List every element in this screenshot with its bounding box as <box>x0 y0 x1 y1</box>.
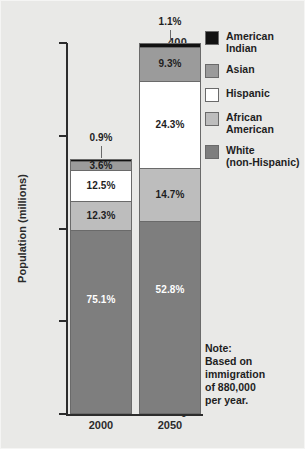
legend-item-american-indian[interactable]: American Indian <box>205 30 301 54</box>
legend-swatch-hispanic <box>205 88 219 102</box>
bar-segment-label: 12.3% <box>87 211 116 221</box>
x-axis-label-2050: 2050 <box>139 419 201 431</box>
plot-area: 4003002001000 0.9%3.6%12.5%12.3%75.1%1.1… <box>68 43 199 414</box>
legend-item-asian[interactable]: Asian <box>205 63 301 78</box>
legend-label-hispanic: Hispanic <box>226 87 270 99</box>
bar-segment-label: 14.7% <box>156 190 185 200</box>
bar-segment-hispanic[interactable]: 12.5% <box>71 171 131 201</box>
y-axis-tick <box>59 413 67 415</box>
stacked-bar-2050[interactable]: 9.3%24.3%14.7%52.8% <box>139 43 201 414</box>
bar-segment-white-non-hispanic[interactable]: 52.8% <box>140 222 200 413</box>
legend-swatch-asian <box>205 64 219 78</box>
bar-segment-label-american-indian: 1.1% <box>135 16 205 27</box>
x-axis-label-2000: 2000 <box>70 419 132 431</box>
y-axis-tick <box>59 228 67 230</box>
legend-label-white-non-hispanic: White (non-Hispanic) <box>226 144 300 168</box>
legend-label-american-indian: American Indian <box>226 30 274 54</box>
y-axis-tick <box>59 320 67 322</box>
callout-leader-line <box>170 30 171 42</box>
legend-swatch-white-non-hispanic <box>205 145 219 159</box>
bar-segment-african-american[interactable]: 14.7% <box>140 169 200 222</box>
legend-item-white-non-hispanic[interactable]: White (non-Hispanic) <box>205 144 301 168</box>
y-axis-tick <box>59 42 67 44</box>
legend-label-asian: Asian <box>226 63 255 75</box>
legend-swatch-african-american <box>205 112 219 126</box>
y-axis-title: Population (millions) <box>14 43 30 414</box>
bar-segment-asian[interactable]: 3.6% <box>71 162 131 171</box>
bar-segment-hispanic[interactable]: 24.3% <box>140 82 200 170</box>
legend: American IndianAsianHispanicAfrican Amer… <box>205 30 301 177</box>
legend-label-african-american: African American <box>226 111 274 135</box>
y-axis-title-wrapper: Population (millions) <box>10 43 26 414</box>
stacked-bar-2000[interactable]: 3.6%12.5%12.3%75.1% <box>70 159 132 414</box>
bar-segment-asian[interactable]: 9.3% <box>140 48 200 82</box>
legend-swatch-american-indian <box>205 31 219 45</box>
bar-segment-label: 24.3% <box>156 120 185 130</box>
chart-figure: Population (millions) 4003002001000 0.9%… <box>0 0 305 449</box>
bar-segment-label: 75.1% <box>87 295 116 305</box>
bar-segment-white-non-hispanic[interactable]: 75.1% <box>71 231 131 413</box>
bar-segment-label: 9.3% <box>158 59 181 69</box>
bar-segment-label: 52.8% <box>156 285 185 295</box>
chart-note: Note: Based on immigration of 880,000 pe… <box>205 342 301 407</box>
bar-segment-label: 12.5% <box>87 181 116 191</box>
callout-leader-line <box>101 146 102 158</box>
bar-segment-label: 3.6% <box>89 161 112 171</box>
bar-segment-african-american[interactable]: 12.3% <box>71 202 131 232</box>
bar-segment-label-american-indian: 0.9% <box>66 132 136 143</box>
legend-item-hispanic[interactable]: Hispanic <box>205 87 301 102</box>
legend-item-african-american[interactable]: African American <box>205 111 301 135</box>
